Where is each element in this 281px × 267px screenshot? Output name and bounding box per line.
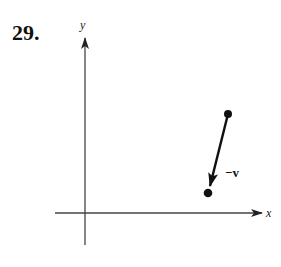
vector-label: −v xyxy=(225,165,239,180)
x-axis-label: x xyxy=(265,206,272,220)
coordinate-diagram: y x −v xyxy=(0,0,281,267)
vector-end-point xyxy=(204,189,213,198)
y-axis-label: y xyxy=(79,18,86,32)
vector-start-point xyxy=(224,110,232,118)
